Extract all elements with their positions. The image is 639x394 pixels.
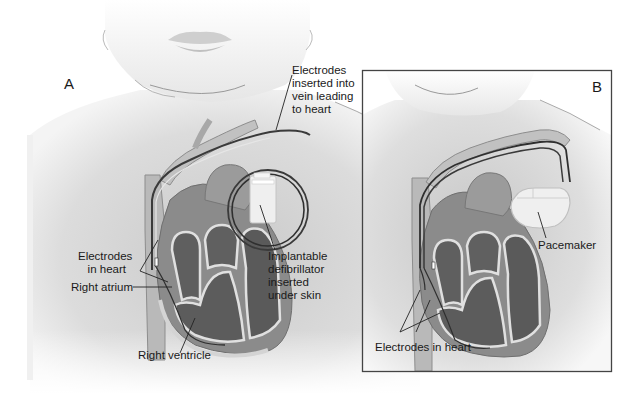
label-pacemaker: Pacemaker [538, 239, 596, 252]
label-right-atrium: Right atrium [71, 281, 133, 294]
panel-b-illustration [362, 70, 611, 371]
panel-b-letter: B [592, 78, 602, 95]
label-right-ventricle: Right ventricle [138, 349, 211, 362]
illustration [0, 0, 639, 394]
label-electrodes-in-heart-b: Electrodes in heart [375, 341, 471, 354]
panel-a-letter: A [64, 75, 74, 92]
figure-stage: A B Electrodes inserted into vein leadin… [0, 0, 639, 394]
label-electrodes-in-heart-a: Electrodes in heart [78, 250, 132, 276]
label-electrodes-inserted-into-vein: Electrodes inserted into vein leading to… [292, 64, 355, 116]
label-implantable-defibrillator: Implantable defibrillator inserted under… [268, 250, 327, 302]
